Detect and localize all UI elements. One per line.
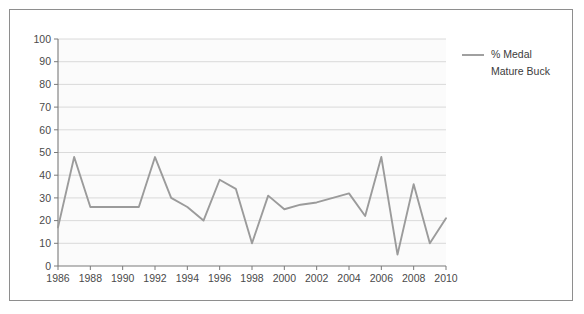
y-tick-label-100: 100 [33, 33, 51, 45]
x-tick-label-1996: 1996 [208, 272, 232, 284]
y-tick-label-50: 50 [39, 146, 51, 158]
x-tick-label-1992: 1992 [143, 272, 167, 284]
x-tick-label-2004: 2004 [337, 272, 361, 284]
y-tick-label-30: 30 [39, 192, 51, 204]
x-tick-label-1986: 1986 [46, 272, 70, 284]
x-tick-label-1994: 1994 [176, 272, 200, 284]
y-tick-label-80: 80 [39, 78, 51, 90]
y-tick-label-70: 70 [39, 101, 51, 113]
x-tick-label-1998: 1998 [240, 272, 264, 284]
y-tick-label-10: 10 [39, 237, 51, 249]
x-tick-label-2010: 2010 [434, 272, 458, 284]
x-tick-label-1988: 1988 [79, 272, 103, 284]
x-tick-label-2002: 2002 [305, 272, 329, 284]
legend-label-line1-0: % Medal [491, 48, 532, 60]
y-tick-label-20: 20 [39, 214, 51, 226]
x-tick-label-2000: 2000 [273, 272, 297, 284]
legend-label-line2-0: Mature Buck [491, 65, 551, 77]
x-tick-label-1990: 1990 [111, 272, 135, 284]
x-tick-label-2008: 2008 [402, 272, 426, 284]
y-tick-label-40: 40 [39, 169, 51, 181]
chart-figure: 0102030405060708090100198619881990199219… [0, 0, 584, 314]
x-tick-label-2006: 2006 [370, 272, 394, 284]
y-tick-label-60: 60 [39, 124, 51, 136]
line-chart: 0102030405060708090100198619881990199219… [10, 10, 574, 302]
y-tick-label-0: 0 [45, 260, 51, 272]
y-tick-label-90: 90 [39, 55, 51, 67]
chart-frame: 0102030405060708090100198619881990199219… [9, 9, 573, 301]
